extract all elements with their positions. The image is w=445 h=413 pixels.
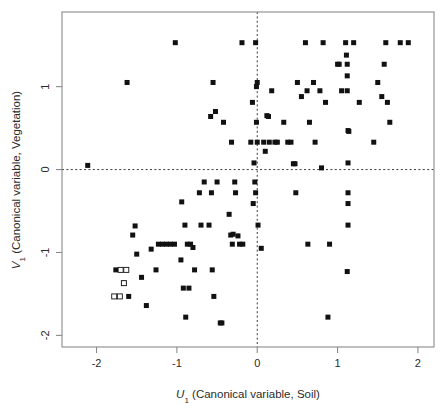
x-tick-label: 1 xyxy=(335,357,341,369)
data-point xyxy=(183,315,188,320)
x-tick-label: 0 xyxy=(254,357,260,369)
y-tick-label: -1 xyxy=(39,248,51,258)
x-tick-label: -1 xyxy=(172,357,182,369)
data-point xyxy=(144,303,149,308)
data-point xyxy=(295,80,300,85)
data-point-open xyxy=(117,294,122,299)
y-tick-label: 1 xyxy=(39,84,51,90)
data-point xyxy=(387,120,392,125)
data-point xyxy=(379,94,384,99)
data-point xyxy=(293,161,298,166)
data-point xyxy=(179,199,184,204)
data-point xyxy=(385,100,390,105)
data-point xyxy=(339,88,344,93)
data-point xyxy=(323,100,328,105)
data-point xyxy=(375,80,380,85)
data-point xyxy=(192,267,197,272)
data-point xyxy=(154,267,159,272)
data-point xyxy=(113,267,118,272)
data-point-open xyxy=(112,294,117,299)
data-point xyxy=(125,80,130,85)
data-point xyxy=(357,100,362,105)
data-point xyxy=(299,94,304,99)
data-point-open xyxy=(121,281,126,286)
scatter-plot-figure: -2-1012 10-1-2 U1 (Canonical variable, S… xyxy=(0,0,445,413)
data-point-open xyxy=(124,267,129,272)
data-point xyxy=(305,242,310,247)
data-point xyxy=(345,269,350,274)
data-point xyxy=(149,247,154,252)
data-point xyxy=(209,190,214,195)
data-point xyxy=(317,88,322,93)
data-point xyxy=(173,40,178,45)
data-point xyxy=(250,100,255,105)
data-point xyxy=(311,80,316,85)
data-point xyxy=(221,120,226,125)
data-point xyxy=(134,252,139,257)
data-point xyxy=(239,40,244,45)
data-point xyxy=(345,73,350,78)
data-point xyxy=(235,233,240,238)
data-point xyxy=(229,140,234,145)
data-point xyxy=(207,223,212,228)
data-point xyxy=(351,40,356,45)
data-point xyxy=(346,160,351,165)
data-point xyxy=(261,140,266,145)
data-point xyxy=(406,40,411,45)
data-point xyxy=(345,88,350,93)
data-point xyxy=(263,149,268,154)
plot-background xyxy=(0,0,445,413)
data-point xyxy=(255,140,260,145)
data-point xyxy=(371,140,376,145)
data-point xyxy=(267,140,272,145)
data-point xyxy=(259,246,264,251)
data-point xyxy=(172,242,177,247)
data-point xyxy=(251,201,256,206)
data-point xyxy=(288,140,293,145)
data-point xyxy=(215,179,220,184)
data-point-open xyxy=(118,267,123,272)
data-point xyxy=(254,120,259,125)
data-point xyxy=(126,294,131,299)
data-point xyxy=(85,163,90,168)
data-point xyxy=(346,190,351,195)
data-point xyxy=(269,88,274,93)
y-tick-label: -2 xyxy=(39,331,51,341)
data-point xyxy=(178,257,183,262)
data-point xyxy=(313,140,318,145)
data-point xyxy=(305,88,310,93)
data-point xyxy=(182,223,187,228)
data-point xyxy=(133,223,138,228)
data-point xyxy=(213,109,218,114)
data-point xyxy=(232,179,237,184)
plot-canvas: -2-1012 10-1-2 U1 (Canonical variable, S… xyxy=(0,0,445,413)
data-point xyxy=(382,62,387,67)
data-point xyxy=(275,140,280,145)
data-point xyxy=(281,120,286,125)
data-point xyxy=(208,114,213,119)
data-point xyxy=(303,40,308,45)
data-point xyxy=(130,233,135,238)
x-tick-label: 2 xyxy=(415,357,421,369)
data-point xyxy=(321,40,326,45)
data-point xyxy=(383,40,388,45)
data-point xyxy=(346,129,351,134)
x-tick-label: -2 xyxy=(92,357,102,369)
data-point xyxy=(252,160,257,165)
data-point xyxy=(255,80,260,85)
data-point xyxy=(211,80,216,85)
data-point xyxy=(319,165,324,170)
data-point xyxy=(343,40,348,45)
data-point xyxy=(345,62,350,67)
data-point xyxy=(210,267,215,272)
data-point xyxy=(266,114,271,119)
data-point xyxy=(346,223,351,228)
data-point xyxy=(337,62,342,67)
data-point xyxy=(344,53,349,58)
y-tick-label: 0 xyxy=(39,166,51,172)
data-point xyxy=(346,201,351,206)
data-point xyxy=(307,120,312,125)
data-point xyxy=(219,320,224,325)
data-point xyxy=(256,223,261,228)
data-point xyxy=(211,294,216,299)
